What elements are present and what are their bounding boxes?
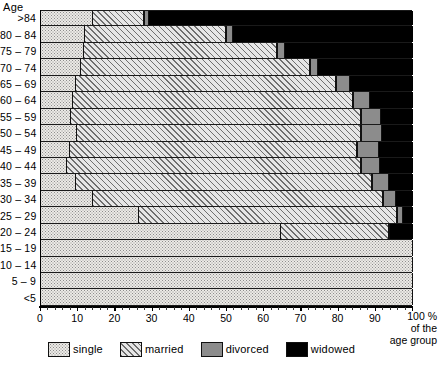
x-tick-minor: [345, 307, 346, 310]
bar-row: [41, 158, 412, 174]
swatch-dotted-icon: [48, 342, 70, 357]
x-tick-minor: [129, 307, 130, 310]
y-tick-label: >84: [0, 12, 36, 24]
bar-segment-married: [93, 191, 383, 206]
x-tick-minor: [308, 307, 309, 310]
bar-segment-widowed: [350, 76, 413, 91]
x-tick-minor: [181, 307, 182, 310]
x-tick-minor: [55, 307, 56, 310]
bar-segment-divorced: [336, 76, 349, 91]
legend-item-married: married: [120, 342, 184, 357]
bar-segment-single: [41, 207, 139, 222]
x-tick-major: [152, 307, 153, 311]
bar-segment-married: [73, 92, 354, 107]
bar-segment-single: [41, 257, 413, 272]
x-tick-label: 30: [146, 312, 158, 324]
y-tick-label: 25 – 29: [0, 210, 36, 222]
x-tick-major: [40, 307, 41, 311]
bar-row: [41, 273, 412, 289]
bar-segment-widowed: [382, 125, 413, 140]
bar-row: [41, 142, 412, 158]
x-tick-minor: [196, 307, 197, 310]
swatch-hatched-icon: [120, 342, 142, 357]
legend: singlemarrieddivorcedwidowed: [48, 338, 388, 360]
x-tick-major: [263, 307, 264, 311]
bar-segment-single: [41, 158, 67, 173]
x-axis-unit-line-1: 100 %: [355, 310, 437, 322]
bar-segment-divorced: [372, 174, 389, 189]
bar-segment-divorced: [310, 59, 319, 74]
bar-segment-married: [76, 174, 372, 189]
bar-segment-single: [41, 240, 413, 255]
x-axis: 0102030405060708090100 %: [40, 306, 412, 307]
x-tick-minor: [174, 307, 175, 310]
x-tick-minor: [92, 307, 93, 310]
bar-segment-divorced: [361, 158, 380, 173]
legend-item-divorced: divorced: [201, 342, 269, 357]
bar-segment-married: [281, 224, 389, 239]
x-tick-minor: [248, 307, 249, 310]
bar-segment-married: [77, 125, 361, 140]
bar-segment-single: [41, 125, 77, 140]
y-tick-label: 45 – 49: [0, 144, 36, 156]
marital-status-by-age-chart: Age >8480 – 8475 – 7970 – 7465 – 6960 – …: [0, 0, 440, 368]
x-tick-major: [338, 307, 339, 311]
bar-segment-single: [41, 43, 84, 58]
bar-segment-widowed: [380, 158, 413, 173]
x-tick-minor: [204, 307, 205, 310]
plot-area: [40, 10, 412, 306]
x-tick-minor: [166, 307, 167, 310]
bar-row: [41, 207, 412, 223]
x-tick-minor: [107, 307, 108, 310]
y-tick-label: 55 – 59: [0, 111, 36, 123]
bar-segment-married: [85, 26, 226, 41]
x-tick-minor: [256, 307, 257, 310]
bar-segment-single: [41, 92, 73, 107]
x-tick-minor: [271, 307, 272, 310]
bar-segment-divorced: [353, 92, 370, 107]
y-tick-label: 65 – 69: [0, 78, 36, 90]
bar-rows: [41, 10, 412, 306]
y-tick-label: <5: [0, 292, 36, 304]
bar-segment-married: [93, 11, 144, 25]
x-tick-minor: [323, 307, 324, 310]
x-axis-unit-line-2: of the: [355, 322, 437, 334]
bar-segment-widowed: [370, 92, 413, 107]
x-tick-label: 20: [109, 312, 121, 324]
bar-row: [41, 191, 412, 207]
y-tick-label: 30 – 34: [0, 193, 36, 205]
y-tick-label: 15 – 19: [0, 242, 36, 254]
bar-segment-widowed: [390, 224, 413, 239]
y-tick-label: 5 – 9: [0, 275, 36, 287]
swatch-black-icon: [286, 342, 308, 357]
bar-row: [41, 43, 412, 59]
x-tick-minor: [352, 307, 353, 310]
x-tick-label: 10: [71, 312, 83, 324]
x-tick-minor: [100, 307, 101, 310]
legend-label: married: [145, 343, 184, 355]
bar-segment-widowed: [233, 26, 413, 41]
y-tick-label: 70 – 74: [0, 62, 36, 74]
x-tick-minor: [286, 307, 287, 310]
x-tick-minor: [85, 307, 86, 310]
x-tick-minor: [137, 307, 138, 310]
bar-segment-married: [70, 142, 357, 157]
x-tick-major: [189, 307, 190, 311]
bar-segment-widowed: [381, 109, 413, 124]
x-tick-label: 70: [295, 312, 307, 324]
y-tick-label: 80 – 84: [0, 29, 36, 41]
x-tick-minor: [233, 307, 234, 310]
bar-segment-married: [84, 43, 277, 58]
x-tick-major: [77, 307, 78, 311]
bar-segment-divorced: [383, 191, 396, 206]
bar-segment-widowed: [389, 174, 413, 189]
bar-row: [41, 92, 412, 108]
bar-segment-married: [139, 207, 396, 222]
x-tick-label: 50: [220, 312, 232, 324]
bar-row: [41, 224, 412, 240]
y-axis-title: Age: [3, 1, 23, 13]
bar-segment-single: [41, 76, 76, 91]
x-tick-minor: [122, 307, 123, 310]
x-tick-major: [114, 307, 115, 311]
x-tick-minor: [47, 307, 48, 310]
